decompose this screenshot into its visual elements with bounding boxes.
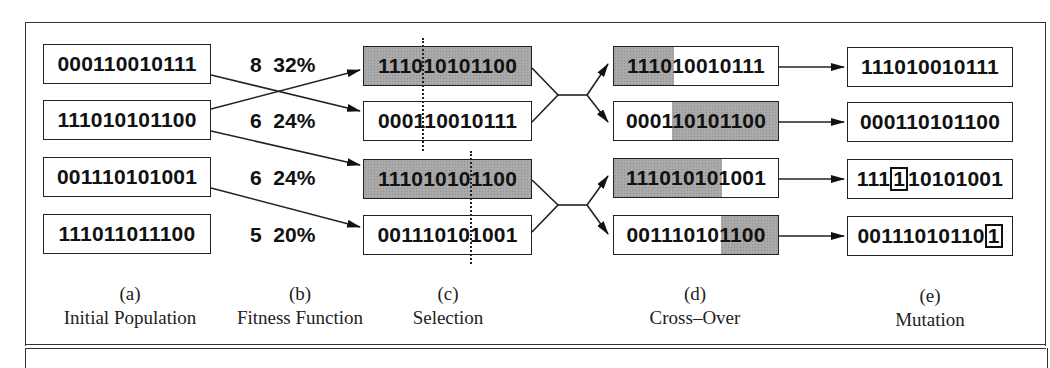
label-name: Selection — [373, 306, 523, 330]
label-mutation: (e)Mutation — [855, 284, 1005, 332]
label-letter: (e) — [855, 284, 1005, 308]
label-letter: (d) — [620, 282, 770, 306]
label-name: Cross–Over — [620, 306, 770, 330]
label-cross-over: (d)Cross–Over — [620, 282, 770, 330]
label-name: Mutation — [855, 308, 1005, 332]
label-letter: (c) — [373, 282, 523, 306]
label-selection: (c)Selection — [373, 282, 523, 330]
